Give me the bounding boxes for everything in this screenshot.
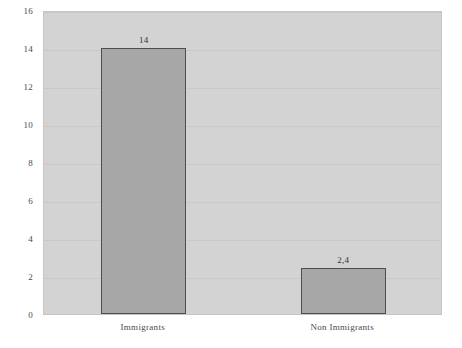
- x-axis: ImmigrantsNon Immigrants: [43, 320, 442, 340]
- x-axis-category-label: Non Immigrants: [311, 323, 374, 332]
- y-axis-tick-label: 8: [28, 159, 33, 168]
- bar[interactable]: [101, 48, 186, 314]
- y-axis-tick-label: 14: [23, 45, 33, 54]
- gridline: [44, 12, 441, 13]
- y-axis-tick-label: 12: [23, 83, 33, 92]
- x-axis-category-label: Immigrants: [121, 323, 166, 332]
- bar-value-label: 2,4: [337, 256, 349, 265]
- bar[interactable]: [301, 268, 386, 314]
- y-axis-tick-label: 10: [23, 121, 33, 130]
- y-axis: 0246810121416: [0, 11, 39, 315]
- bar-value-label: 14: [139, 36, 149, 45]
- y-axis-tick-label: 4: [28, 235, 33, 244]
- y-axis-tick-label: 0: [28, 311, 33, 320]
- bar-chart: 0246810121416 142,4 ImmigrantsNon Immigr…: [0, 0, 462, 348]
- y-axis-tick-label: 6: [28, 197, 33, 206]
- plot-area: 142,4: [43, 11, 442, 315]
- y-axis-tick-label: 16: [23, 7, 33, 16]
- y-axis-tick-label: 2: [28, 273, 33, 282]
